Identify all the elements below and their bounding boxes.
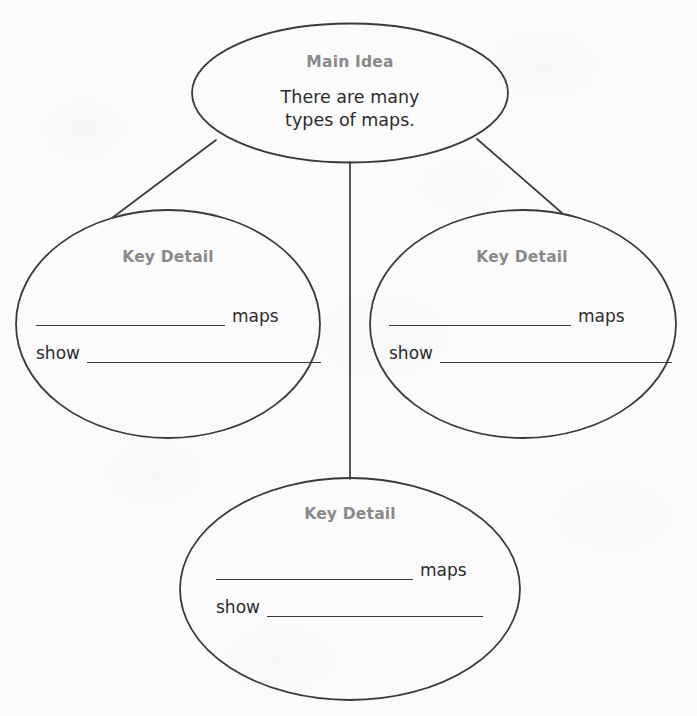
key-detail-bottom-line-1: maps bbox=[216, 562, 467, 580]
key-detail-left-line-1: maps bbox=[36, 308, 279, 326]
key-detail-right-word-maps: maps bbox=[578, 308, 625, 326]
key-detail-heading-right: Key Detail bbox=[476, 248, 568, 266]
key-detail-bottom-word-show: show bbox=[216, 599, 260, 617]
main-idea-body: There are many types of maps. bbox=[281, 86, 420, 133]
main-idea-body-line-2: types of maps. bbox=[281, 109, 420, 132]
key-detail-right-blank-2[interactable] bbox=[440, 347, 672, 363]
key-detail-bottom-word-maps: maps bbox=[420, 562, 467, 580]
key-detail-right-blank-1[interactable] bbox=[389, 310, 571, 326]
key-detail-bottom-blank-1[interactable] bbox=[216, 564, 413, 580]
key-detail-bottom-blank-2[interactable] bbox=[267, 601, 483, 617]
key-detail-left-blank-1[interactable] bbox=[36, 310, 225, 326]
graphic-organizer: Main Idea There are many types of maps. … bbox=[0, 0, 697, 716]
connector-main-to-right bbox=[477, 139, 562, 213]
key-detail-left-blank-2[interactable] bbox=[87, 347, 321, 363]
key-detail-left-word-show: show bbox=[36, 345, 80, 363]
main-idea-heading: Main Idea bbox=[306, 53, 393, 71]
key-detail-right-line-1: maps bbox=[389, 308, 625, 326]
key-detail-left-word-maps: maps bbox=[232, 308, 279, 326]
key-detail-right-word-show: show bbox=[389, 345, 433, 363]
key-detail-right-line-2: show bbox=[389, 345, 672, 363]
connector-main-to-left bbox=[112, 140, 216, 218]
main-idea-body-line-1: There are many bbox=[281, 86, 420, 109]
key-detail-heading-bottom: Key Detail bbox=[304, 505, 396, 523]
key-detail-bottom-line-2: show bbox=[216, 599, 483, 617]
key-detail-left-line-2: show bbox=[36, 345, 321, 363]
key-detail-heading-left: Key Detail bbox=[122, 248, 214, 266]
